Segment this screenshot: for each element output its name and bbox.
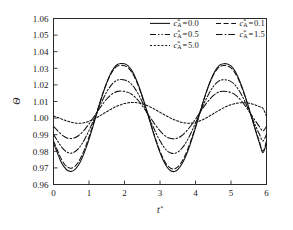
x-axis-ticks: 0123456 <box>51 181 269 198</box>
x-tick-label: 0 <box>51 188 56 198</box>
x-axis-title: t* <box>157 204 163 215</box>
legend-label-3: c*A=1.5 <box>240 29 265 40</box>
y-tick-label: 0.98 <box>33 147 49 157</box>
legend-label-1: c*A=0.1 <box>240 18 265 29</box>
y-tick-label: 1.03 <box>33 64 49 74</box>
y-tick-label: 1.02 <box>33 80 49 90</box>
y-tick-label: 0.99 <box>33 130 49 140</box>
x-tick-label: 1 <box>87 188 92 198</box>
curve-series-4 <box>54 102 267 123</box>
y-tick-label: 1.04 <box>33 47 49 57</box>
y-tick-label: 1.06 <box>33 14 49 24</box>
curve-group <box>54 63 267 171</box>
y-axis-title: Θ <box>11 97 22 104</box>
x-tick-label: 6 <box>264 188 269 198</box>
y-tick-label: 0.96 <box>33 180 49 190</box>
plot-frame <box>54 19 267 185</box>
y-tick-label: 1.00 <box>33 113 49 123</box>
chart-legend: c*A=0.0c*A=0.1c*A=0.5c*A=1.5c*A=5.0 <box>150 18 265 51</box>
legend-label-4: c*A=5.0 <box>174 40 199 51</box>
y-tick-label: 1.05 <box>33 30 49 40</box>
y-tick-label: 0.97 <box>33 163 49 173</box>
curve-series-0 <box>54 63 267 171</box>
line-chart: 0.960.970.980.991.001.011.021.031.041.05… <box>0 0 293 230</box>
figure-container: 0.960.970.980.991.001.011.021.031.041.05… <box>0 0 293 230</box>
x-tick-label: 3 <box>158 188 163 198</box>
legend-label-0: c*A=0.0 <box>174 18 199 29</box>
legend-label-2: c*A=0.5 <box>174 29 199 40</box>
x-tick-label: 5 <box>229 188 234 198</box>
x-tick-label: 2 <box>122 188 127 198</box>
x-tick-label: 4 <box>193 188 198 198</box>
y-tick-label: 1.01 <box>33 97 49 107</box>
curve-series-2 <box>54 80 267 154</box>
curve-series-3 <box>54 91 267 139</box>
